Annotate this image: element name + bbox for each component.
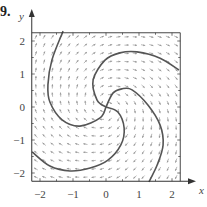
- arrow-head-icon: [134, 119, 136, 121]
- arrow-head-icon: [91, 135, 93, 137]
- arrow-head-icon: [142, 120, 144, 122]
- x-axis-label: x: [198, 184, 204, 196]
- solution-curves: [32, 31, 179, 182]
- arrow-head-icon: [75, 176, 77, 178]
- y-axis-label: y: [18, 10, 24, 22]
- x-tick-label: −2: [34, 188, 46, 200]
- y-tick-label: 0: [20, 101, 26, 113]
- arrow-head-icon: [142, 136, 144, 138]
- arrow-head-icon: [35, 76, 37, 78]
- y-tick-label: −1: [13, 134, 25, 146]
- x-tick-label: 0: [103, 188, 109, 200]
- arrow-head-icon: [51, 84, 53, 86]
- y-axis-arrow-icon: [29, 9, 35, 17]
- arrow-head-icon: [35, 84, 37, 86]
- arrow-head-icon: [127, 36, 129, 38]
- solution-curve-arm-1: [93, 51, 179, 107]
- arrow-head-icon: [119, 69, 121, 71]
- arrow-head-icon: [83, 176, 85, 178]
- x-axis-arrow-icon: [188, 178, 196, 184]
- arrow-head-icon: [83, 160, 85, 162]
- arrow-head-icon: [91, 151, 93, 153]
- arrow-head-icon: [60, 84, 62, 86]
- x-tick-label: −1: [67, 188, 79, 200]
- arrow-head-icon: [127, 52, 129, 54]
- arrow-head-icon: [135, 69, 137, 71]
- arrow-head-icon: [167, 128, 169, 130]
- arrow-head-icon: [159, 36, 161, 38]
- arrow-head-icon: [68, 92, 70, 94]
- arrow-head-icon: [175, 160, 177, 162]
- arrow-head-icon: [60, 92, 62, 94]
- arrow-head-icon: [127, 44, 129, 46]
- arrow-head-icon: [150, 128, 152, 130]
- y-tick-label: −2: [13, 167, 25, 179]
- arrow-head-icon: [150, 119, 152, 121]
- y-tick-label: 2: [20, 35, 26, 47]
- arrow-head-icon: [127, 61, 129, 63]
- y-tick-label: 1: [20, 68, 26, 80]
- arrow-head-icon: [118, 77, 120, 79]
- arrow-head-icon: [83, 151, 85, 153]
- arrow-head-icon: [68, 76, 70, 78]
- arrow-head-icon: [175, 136, 177, 138]
- arrow-head-icon: [50, 176, 52, 178]
- x-tick-label: 2: [169, 188, 175, 200]
- axis-tick-labels: −2−1012−2−1012: [13, 35, 174, 200]
- arrow-head-icon: [93, 101, 95, 103]
- arrow-head-icon: [91, 143, 93, 145]
- arrow-head-icon: [43, 84, 45, 86]
- arrow-head-icon: [118, 61, 120, 63]
- x-tick-label: 1: [136, 188, 142, 200]
- direction-field-plot: −2−1012−2−1012 x y: [0, 0, 207, 207]
- arrow-head-icon: [75, 143, 77, 145]
- axes-arrows: [29, 9, 196, 184]
- arrow-head-icon: [175, 128, 177, 130]
- arrow-head-icon: [76, 92, 78, 94]
- arrow-head-icon: [135, 36, 137, 38]
- arrow-head-icon: [35, 51, 37, 53]
